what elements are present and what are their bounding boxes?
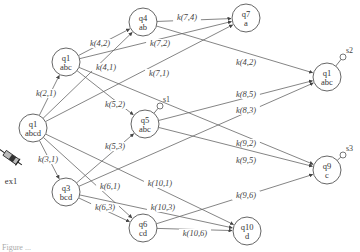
edge-n_ab-n_abc_r: k(4,2) [156, 26, 312, 73]
node-label: a [244, 18, 248, 28]
node-q3-bcd: q3bcd [52, 178, 80, 206]
edge-label: k(9,2) [236, 138, 256, 148]
sink-label: s3 [346, 144, 353, 153]
edge-label: k(9,6) [236, 190, 256, 200]
edge-label: k(2,1) [36, 88, 56, 98]
node-label: ab [139, 22, 147, 32]
node-label: abc [60, 62, 72, 72]
node-q6-cd: q6cd [129, 214, 157, 242]
edge-label: k(7,4) [177, 12, 197, 22]
edge-label: k(4,2) [236, 57, 256, 67]
node-label: c [325, 170, 329, 180]
edge-label: k(3,1) [38, 154, 58, 164]
edge-n_abcd-n_abc_l: k(2,1) [32, 75, 60, 115]
edge-n_abcd-n_d: k(10,1) [46, 134, 234, 224]
edge-n_abc_m-n_c: k(9,5) [159, 127, 313, 166]
edge-n_bcd-n_cd: k(6,3) [79, 198, 130, 222]
node-q10-d: q10d [233, 217, 261, 245]
sink-s3: s3 [337, 144, 353, 160]
edge-label: k(4,2) [90, 38, 110, 48]
syringe-icon [0, 146, 24, 168]
edge-label: k(5,3) [105, 141, 125, 151]
node-q4-ab: q4ab [129, 8, 157, 36]
edge-label: k(9,5) [236, 155, 256, 165]
node-label: cd [139, 228, 148, 238]
node-q1-abc: q1abc [52, 48, 80, 76]
edge-label: k(7,1) [149, 68, 169, 78]
sink-label: s2 [346, 46, 353, 55]
node-q9-c: q9c [313, 156, 341, 184]
edge-label: k(5,2) [105, 99, 125, 109]
node-label: abcd [25, 128, 42, 138]
node-q7-a: q7a [232, 4, 260, 32]
source-label: ex1 [5, 176, 17, 186]
edge-n_abc_l-n_abc_m: k(5,2) [77, 71, 133, 115]
node-q1-abc: q1abc [313, 63, 341, 91]
node-label: abc [139, 124, 151, 134]
source-injector: ex1 [0, 146, 24, 186]
edge-label: k(10,6) [183, 228, 207, 238]
edge-n_cd-n_c: k(9,6) [156, 175, 312, 224]
figure-caption: Figure ... [2, 243, 31, 252]
node-label: abc [321, 77, 333, 87]
edge-label: k(8,5) [236, 89, 256, 99]
edge-n_ab-n_a: k(7,4) [157, 12, 231, 22]
node-q1-abcd: q1abcd [19, 114, 47, 142]
edge-n_abcd-n_bcd: k(3,1) [34, 140, 62, 178]
edge-n_bcd-n_abc_m: k(5,3) [77, 134, 134, 183]
edge-label: k(8,3) [236, 105, 256, 115]
edge-label: k(7,2) [150, 38, 170, 48]
reaction-network-diagram: k(2,1)k(4,1)k(7,1)k(3,1)k(6,1)k(10,1)k(4… [0, 0, 360, 252]
edge-n_cd-n_d: k(10,6) [157, 228, 232, 238]
sink-s2: s2 [336, 46, 353, 66]
edge-label: k(10,1) [148, 178, 172, 188]
edge-label: k(6,3) [95, 202, 115, 212]
edge-label: k(10,3) [151, 202, 175, 212]
node-q5-abc: q5abc [131, 110, 159, 138]
edge-label: k(6,1) [100, 181, 120, 191]
sink-label: s1 [163, 95, 170, 104]
edge-label: k(4,1) [96, 62, 116, 72]
node-label: bcd [60, 192, 73, 202]
